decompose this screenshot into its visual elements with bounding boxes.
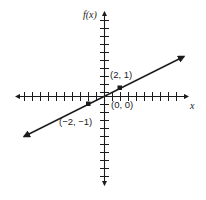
coordinate-plane — [0, 0, 206, 200]
graph-figure: f(x) x (2, 1) (0, 0) (−2, −1) — [0, 0, 206, 200]
point-label-2-1: (2, 1) — [110, 70, 132, 80]
point-label-0-0: (0, 0) — [111, 100, 133, 110]
y-axis-label: f(x) — [83, 10, 97, 20]
marker-point-m2m1 — [86, 102, 91, 107]
x-axis — [16, 92, 188, 101]
x-axis-label: x — [190, 101, 194, 111]
marker-point-21 — [118, 86, 123, 91]
point-label-neg2-neg1: (−2, −1) — [59, 117, 92, 127]
